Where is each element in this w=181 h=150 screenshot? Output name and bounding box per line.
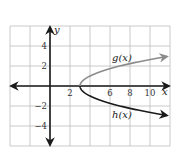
y-axis-label: y	[53, 24, 60, 35]
x-tick-label: 10	[145, 88, 156, 98]
x-tick-label: 8	[127, 88, 132, 98]
x-tick-label: 2	[67, 88, 72, 98]
function-graph: xy 2681042−2−4 g(x)h(x)	[0, 0, 181, 150]
y-tick-label: 4	[42, 41, 47, 51]
label-g: g(x)	[112, 52, 132, 63]
label-h: h(x)	[112, 109, 132, 120]
x-tick-label: 6	[107, 88, 112, 98]
x-axis-label: x	[162, 86, 168, 97]
y-tick-label: −4	[34, 121, 47, 131]
y-tick-label: −2	[34, 101, 47, 111]
y-tick-label: 2	[42, 61, 47, 71]
